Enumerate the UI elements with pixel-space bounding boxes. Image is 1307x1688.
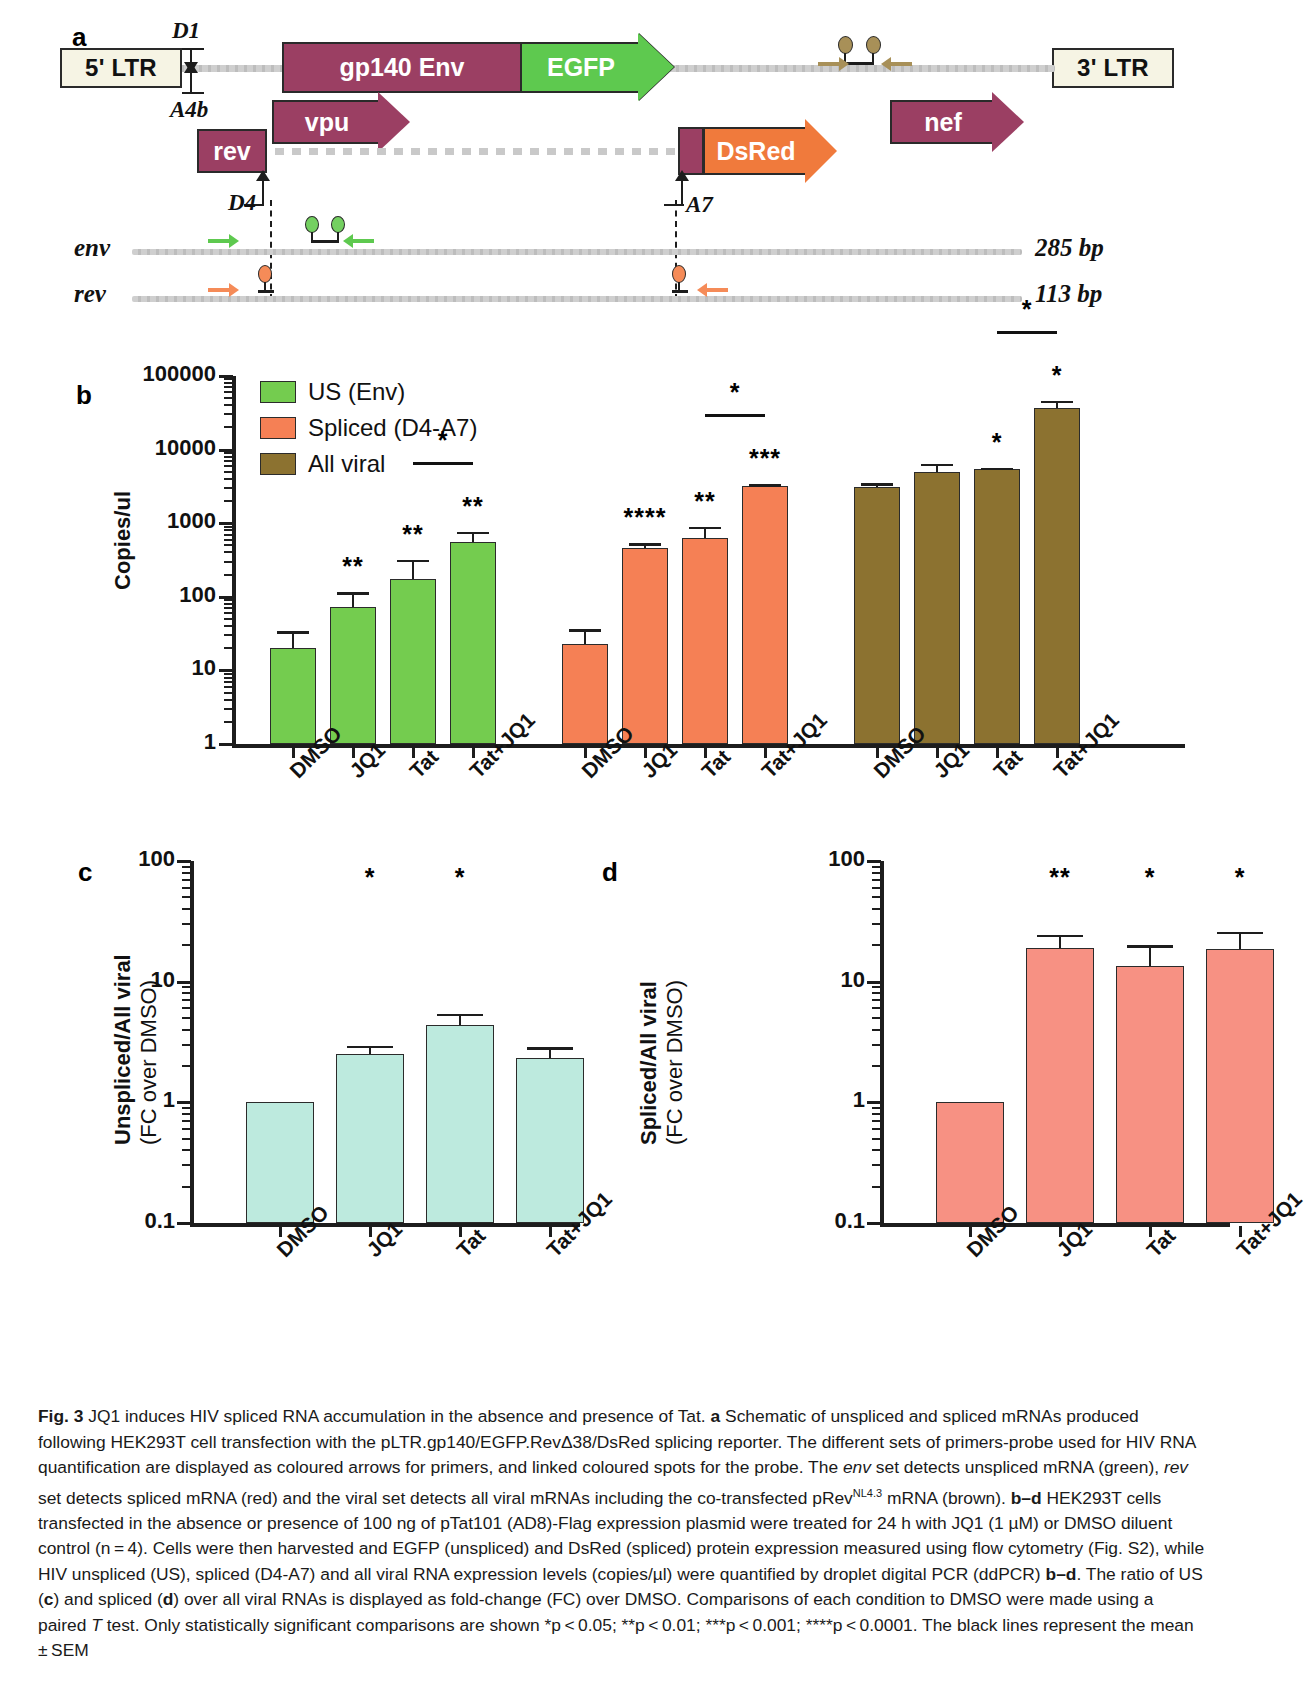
panel-d-ytick-minor (872, 1120, 881, 1122)
panel-b-ytick-minor (224, 681, 233, 683)
panel-d-ytick-minor (872, 1128, 881, 1130)
panel-d-ytick-minor (872, 1138, 881, 1140)
panel-b-ytick-minor (224, 378, 233, 380)
panel-b-comparison-bar (413, 462, 473, 465)
ltr5-box: 5' LTR (60, 48, 182, 88)
transcript-env-name: env (74, 234, 110, 262)
panel-b-xcat-label: Tat (697, 745, 735, 783)
panel-b-bar (450, 542, 496, 744)
panel-b-ytick-minor (224, 618, 233, 620)
errorbar-cap (457, 532, 488, 535)
panel-d-ytick-minor (872, 1007, 881, 1009)
panel-b-ytick-minor (224, 382, 233, 384)
panel-d-significance: * (1190, 863, 1290, 892)
panel-d-ytick-minor (872, 944, 881, 946)
rev-primer-reverse-shaft (706, 288, 728, 292)
panel-c-ytick-minor (182, 992, 191, 994)
panel-c-ytick-minor (182, 999, 191, 1001)
panel-b-ytick-minor (224, 607, 233, 609)
panel-d-ytick-major (867, 1222, 881, 1225)
panel-d-ytick-minor (872, 1065, 881, 1067)
panel-c-errorbar (426, 1014, 494, 1027)
panel-c-ytick-minor (182, 872, 191, 874)
panel-c-bar (426, 1025, 494, 1223)
panel-d-x-axis (880, 1223, 1230, 1227)
panel-d-ytick-minor (872, 908, 881, 910)
errorbar-cap (1217, 932, 1263, 935)
panel-b-bar (562, 644, 608, 744)
caption-env-italic-1: env (843, 1457, 871, 1477)
panel-b-ytick-label: 1000 (82, 508, 216, 534)
panel-b-errorbar (390, 560, 436, 581)
errorbar-cap (1037, 935, 1083, 938)
caption-a3-text: set detects spliced mRNA (red) and the v… (38, 1487, 853, 1507)
panel-c-ytick-minor (182, 866, 191, 868)
panel-d-ytick-minor (872, 986, 881, 988)
panel-b-ytick-minor (224, 529, 233, 531)
panel-b-ytick-major (219, 743, 233, 746)
env-primer-forward-shaft (208, 239, 230, 243)
gene-egfp: EGFP (520, 42, 640, 93)
panel-d-ytick-minor (872, 1149, 881, 1151)
a4b-arrowhead (184, 62, 198, 73)
panel-b-comparison-significance: * (705, 378, 765, 407)
panel-b-errorbar (450, 532, 496, 544)
panel-b-errorbar (742, 484, 788, 488)
panel-b-bar (1034, 408, 1080, 744)
panel-d-ytick-minor (872, 896, 881, 898)
panel-b-ytick-minor (224, 574, 233, 576)
panel-b-ytick-label: 10000 (82, 435, 216, 461)
panel-b-ytick-minor (224, 391, 233, 393)
errorbar-cap (277, 631, 308, 634)
panel-b-ytick-minor (224, 721, 233, 723)
gene-vpu: vpu (272, 100, 380, 144)
rev-primer-forward (208, 288, 230, 292)
panel-b-ytick-label: 100 (82, 582, 216, 608)
panel-b-significance: ** (372, 520, 454, 549)
panel-b-comparison-significance: * (413, 426, 473, 455)
rev-probe-dot-right (672, 265, 686, 283)
panel-c-ytick-minor (182, 923, 191, 925)
panel-b-significance: ** (312, 552, 394, 581)
panel-b-errorbar (682, 527, 728, 541)
panel-d-ytick-minor (872, 866, 881, 868)
panel-b-ytick-label: 10 (82, 655, 216, 681)
panel-b-ytick-minor (224, 413, 233, 415)
panel-b-errorbar (562, 629, 608, 645)
panel-b-ytick-label: 100000 (82, 361, 216, 387)
errorbar-cap (527, 1047, 573, 1050)
panel-b-errorbar (914, 464, 960, 474)
panel-b-ytick-minor (224, 534, 233, 536)
env-probe-bridge (311, 240, 339, 243)
panel-d-ytick-minor (872, 887, 881, 889)
panel-c-ytick-minor (182, 879, 191, 881)
panel-b-ytick-minor (224, 603, 233, 605)
caption-figure-id: Fig. 3 (38, 1406, 83, 1426)
panel-d-significance: ** (1010, 863, 1110, 892)
rev-primer-forward-shaft (208, 288, 230, 292)
panel-d-ytick-major (867, 1101, 881, 1104)
panel-b-bar (974, 469, 1020, 744)
panel-c-bar (516, 1058, 584, 1223)
panel-d-ytick-label: 1 (775, 1087, 865, 1113)
a7-tick (664, 204, 684, 206)
panel-b-ytick-minor (224, 677, 233, 679)
panel-b-ytick-minor (224, 708, 233, 710)
rev-exon-segment (678, 127, 704, 175)
panel-b-ytick-minor (224, 397, 233, 399)
viral-primer-reverse-tip (881, 57, 891, 71)
viral-probe-dot-left (838, 36, 853, 54)
panel-d-errorbar (1026, 935, 1094, 950)
panel-b-ytick-minor (224, 456, 233, 458)
panel-b-significance: ** (432, 492, 514, 521)
panel-c-significance: * (410, 863, 510, 892)
panel-b-bar (390, 579, 436, 744)
panel-b-plot-area: 110100100010000100000US (Env)Spliced (D4… (0, 340, 1241, 860)
panel-d-xcat-label: Tat (1142, 1224, 1180, 1262)
env-primer-forward-tip (229, 234, 239, 248)
panel-c-ytick-minor (182, 1128, 191, 1130)
panel-d-ytick-minor (872, 879, 881, 881)
panel-d-bar (1116, 966, 1184, 1223)
legend-swatch-0 (260, 381, 296, 403)
panel-c-ytick-minor (182, 1029, 191, 1031)
